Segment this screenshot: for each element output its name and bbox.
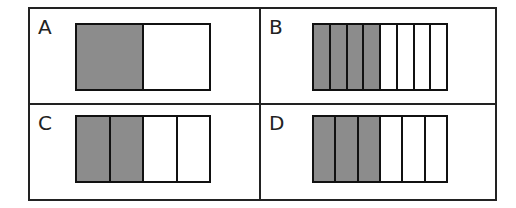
- shaded-segment: [359, 117, 381, 181]
- fraction-bar: [75, 115, 211, 183]
- panel-label: A: [38, 17, 52, 37]
- shaded-segment: [364, 25, 381, 89]
- fraction-grid: A B C D: [28, 7, 497, 201]
- shaded-segment: [77, 117, 111, 181]
- panel-c: C: [30, 105, 259, 199]
- panel-b: B: [261, 9, 490, 103]
- shaded-segment: [331, 25, 348, 89]
- unshaded-segment: [381, 25, 398, 89]
- fraction-bar: [75, 23, 211, 91]
- shaded-segment: [314, 117, 336, 181]
- panel-label: D: [269, 113, 284, 133]
- unshaded-segment: [426, 117, 446, 181]
- shaded-segment: [314, 25, 331, 89]
- shaded-segment: [336, 117, 358, 181]
- unshaded-segment: [431, 25, 446, 89]
- unshaded-segment: [403, 117, 425, 181]
- unshaded-segment: [144, 25, 209, 89]
- unshaded-segment: [415, 25, 432, 89]
- fraction-bar: [312, 23, 448, 91]
- shaded-segment: [111, 117, 145, 181]
- panel-d: D: [261, 105, 490, 199]
- unshaded-segment: [178, 117, 210, 181]
- unshaded-segment: [398, 25, 415, 89]
- unshaded-segment: [381, 117, 403, 181]
- panel-label: B: [269, 17, 283, 37]
- panel-label: C: [38, 113, 52, 133]
- panel-a: A: [30, 9, 259, 103]
- unshaded-segment: [144, 117, 178, 181]
- fraction-bar: [312, 115, 448, 183]
- shaded-segment: [77, 25, 144, 89]
- shaded-segment: [348, 25, 365, 89]
